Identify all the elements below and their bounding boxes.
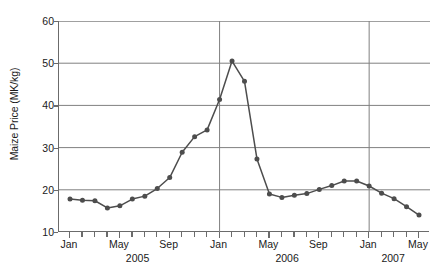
x-tick-mark	[318, 232, 319, 238]
plot-area	[58, 21, 429, 232]
x-tick-mark	[119, 232, 120, 238]
x-year-label: 2007	[368, 252, 418, 264]
x-year-label: 2005	[113, 252, 163, 264]
x-tick-mark	[356, 232, 357, 237]
x-tick-mark	[106, 232, 107, 237]
x-tick-mark	[418, 232, 419, 238]
x-tick-mark	[368, 232, 369, 238]
data-point	[379, 191, 384, 196]
data-point	[80, 198, 85, 203]
data-point	[130, 197, 135, 202]
data-point	[192, 134, 197, 139]
data-point	[404, 204, 409, 209]
data-point	[142, 194, 147, 199]
y-tick-label-40: 40	[28, 100, 54, 110]
data-point	[105, 205, 110, 210]
y-tick-label-20: 20	[28, 185, 54, 195]
x-month-label: Jan	[348, 238, 388, 250]
data-point	[279, 195, 284, 200]
x-tick-mark	[343, 232, 344, 237]
data-point	[242, 79, 247, 84]
x-tick-mark	[231, 232, 232, 237]
x-tick-mark	[81, 232, 82, 237]
x-month-label: Sep	[298, 238, 338, 250]
x-tick-mark	[144, 232, 145, 237]
data-point	[155, 186, 160, 191]
y-tick-label-10: 10	[28, 227, 54, 237]
x-month-label: May	[99, 238, 139, 250]
x-tick-mark	[94, 232, 95, 237]
data-point	[292, 193, 297, 198]
x-tick-mark	[268, 232, 269, 238]
maize-price-markers	[68, 59, 422, 218]
x-year-label: 2006	[262, 252, 312, 264]
x-tick-mark	[219, 232, 220, 238]
data-point	[392, 196, 397, 201]
x-tick-mark	[181, 232, 182, 237]
x-tick-mark	[406, 232, 407, 237]
x-tick-mark	[381, 232, 382, 237]
x-axis-year-labels: 200520062007	[58, 252, 429, 266]
plot-svg	[59, 21, 430, 232]
data-point	[217, 97, 222, 102]
y-axis-tick-labels: 102030405060	[26, 0, 54, 253]
data-point	[230, 59, 235, 64]
data-point	[267, 192, 272, 197]
data-point	[167, 175, 172, 180]
data-point	[117, 203, 122, 208]
y-tick-label-30: 30	[28, 143, 54, 153]
y-tick-label-50: 50	[28, 58, 54, 68]
gridlines	[59, 21, 430, 190]
data-point	[329, 183, 334, 188]
data-point	[68, 197, 73, 202]
maize-price-line	[70, 61, 419, 215]
x-tick-mark	[306, 232, 307, 237]
x-tick-mark	[331, 232, 332, 237]
data-point	[342, 178, 347, 183]
x-month-label: Jan	[199, 238, 239, 250]
y-tick-label-60: 60	[28, 16, 54, 26]
x-month-label: May	[398, 238, 438, 250]
data-point	[317, 187, 322, 192]
x-axis-month-labels: JanMaySepJanMaySepJanMay	[58, 238, 429, 252]
x-tick-mark	[194, 232, 195, 237]
x-tick-mark	[244, 232, 245, 237]
data-point	[304, 191, 309, 196]
data-point	[417, 213, 422, 218]
x-tick-mark	[169, 232, 170, 238]
maize-price-line-chart: Maize Price (MK/kg) 102030405060 JanMayS…	[0, 0, 438, 274]
y-axis-title: Maize Price (MK/kg)	[8, 39, 20, 189]
data-point	[92, 198, 97, 203]
x-tick-mark	[69, 232, 70, 238]
x-tick-mark	[293, 232, 294, 237]
x-tick-mark	[281, 232, 282, 237]
x-tick-mark	[393, 232, 394, 237]
x-month-label: May	[248, 238, 288, 250]
x-month-label: Jan	[49, 238, 89, 250]
x-tick-mark	[256, 232, 257, 237]
x-tick-mark	[206, 232, 207, 237]
data-point	[180, 150, 185, 155]
year-divider-lines	[220, 21, 370, 232]
data-point	[205, 127, 210, 132]
x-tick-mark	[156, 232, 157, 237]
data-point	[367, 184, 372, 189]
x-tick-mark	[131, 232, 132, 237]
data-point	[254, 156, 259, 161]
data-point	[354, 178, 359, 183]
x-axis-tick-marks	[58, 232, 429, 237]
x-month-label: Sep	[149, 238, 189, 250]
